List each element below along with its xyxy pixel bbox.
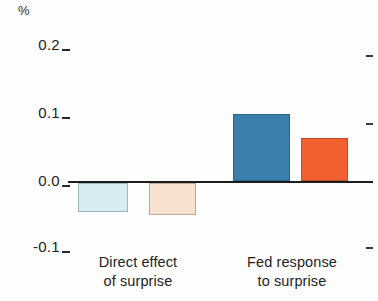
bar-fed-response-blue (233, 114, 290, 181)
bar-direct-effect-light-orange (149, 183, 196, 215)
x-axis-label-direct-effect-line2: of surprise (78, 272, 198, 291)
y-tick-label-1: 0.1 (4, 104, 60, 122)
bar-fed-response-orange (301, 138, 348, 181)
right-tick-stub-1 (366, 123, 373, 125)
y-tick-label-3: -0.1 (4, 238, 60, 256)
y-tick-text-1: 0.1 (38, 104, 60, 121)
y-tick-text-3: -0.1 (33, 238, 60, 255)
x-axis-label-direct-effect: Direct effect of surprise (78, 253, 198, 291)
right-tick-stub-3 (366, 247, 373, 249)
x-axis-label-direct-effect-line1: Direct effect (99, 254, 177, 270)
x-axis-label-fed-response-line1: Fed response (247, 254, 337, 270)
right-tick-stub-0 (366, 55, 373, 57)
y-tick-mark-3 (62, 251, 70, 253)
y-tick-text-2: 0.0 (38, 172, 60, 189)
x-axis-label-fed-response-line2: to surprise (232, 272, 352, 291)
y-tick-label-0: 0.2 (4, 36, 60, 54)
x-axis-label-fed-response: Fed response to surprise (232, 253, 352, 291)
y-axis-unit-label: % (18, 4, 30, 18)
y-tick-label-2: 0.0 (4, 172, 60, 190)
bar-chart: % 0.2 0.1 0.0 -0.1 Direct effect of surp… (0, 0, 378, 301)
zero-baseline (68, 181, 373, 183)
plot-area (68, 10, 373, 250)
bar-direct-effect-light-blue (78, 183, 128, 212)
y-tick-text-0: 0.2 (38, 36, 60, 53)
